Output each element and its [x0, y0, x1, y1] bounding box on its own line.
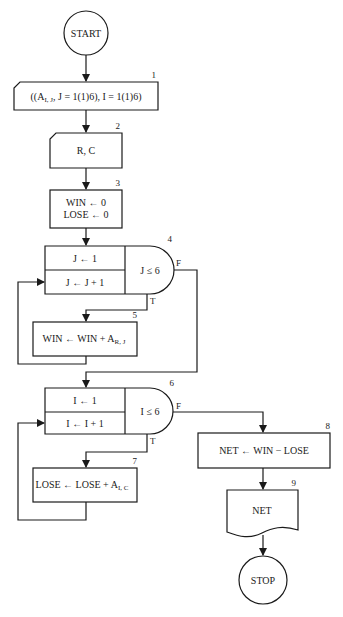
node-6-false-label: F [176, 401, 181, 411]
node-6-incr: I ← I + 1 [66, 418, 103, 429]
node-4-init: J ← 1 [73, 253, 97, 264]
node-9-label: NET [252, 505, 271, 516]
node-5-number: 5 [133, 310, 138, 320]
node-6-true-label: T [150, 436, 156, 446]
node-6-test: I ≤ 6 [141, 406, 160, 417]
node-4-incr: J ← J + 1 [66, 277, 104, 288]
node-3-number: 3 [116, 178, 121, 188]
node-6-init: I ← 1 [73, 395, 96, 406]
stop-label: STOP [251, 575, 276, 586]
node-7-process: 7 LOSE ← LOSE + AI, C [33, 456, 138, 502]
node-2-label: R, C [77, 145, 96, 156]
node-6-loop: 6 I ← 1 I ← I + 1 I ≤ 6 F T [45, 378, 181, 446]
edge-4-5-true [86, 294, 147, 321]
node-1-number: 1 [152, 70, 157, 80]
edge-6-8-false [173, 412, 263, 432]
node-2-number: 2 [116, 121, 121, 131]
edge-6-7-true [86, 434, 147, 467]
node-4-false-label: F [176, 258, 181, 268]
node-3-line-1: WIN ← 0 [66, 197, 106, 208]
start-label: START [71, 28, 101, 39]
node-8-label: NET ← WIN − LOSE [219, 445, 309, 456]
flowchart: START 1 ((AI, J, J = 1(1)6), I = 1(1)6) … [0, 0, 343, 617]
node-4-test: J ≤ 6 [140, 265, 159, 276]
node-5-process: 5 WIN ← WIN + AR, J [33, 310, 138, 356]
node-7-number: 7 [133, 456, 138, 466]
node-8-process: 8 NET ← WIN − LOSE [198, 421, 331, 468]
node-4-true-label: T [150, 296, 156, 306]
stop-terminal: STOP [239, 556, 287, 604]
node-8-number: 8 [326, 421, 331, 431]
node-6-number: 6 [170, 378, 175, 388]
node-4-number: 4 [168, 234, 173, 244]
node-3-line-2: LOSE ← 0 [64, 209, 109, 220]
node-4-loop: 4 J ← 1 J ← J + 1 J ≤ 6 F T [45, 234, 181, 306]
node-9-number: 9 [292, 478, 297, 488]
start-terminal: START [64, 11, 108, 55]
